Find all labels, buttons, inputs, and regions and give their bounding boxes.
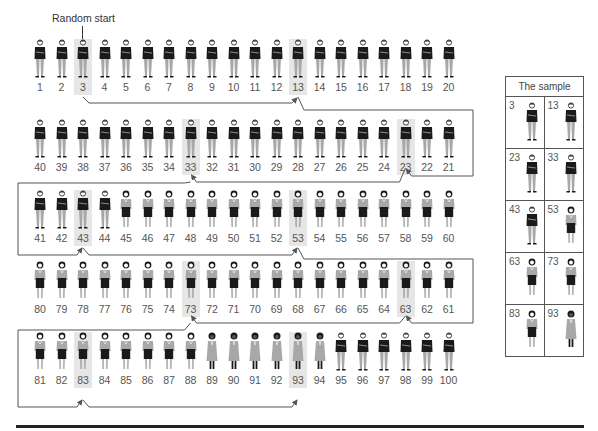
woman-skirt-figure-icon	[292, 190, 304, 230]
population-row: 8182838485868788899091929394959697989910…	[0, 332, 490, 390]
woman-skirt-figure-icon	[163, 261, 175, 301]
man-figure-icon	[120, 39, 132, 79]
woman-skirt-figure-icon	[56, 261, 68, 301]
man-figure-icon	[56, 190, 68, 230]
man-figure-icon	[421, 119, 433, 159]
woman-skirt-figure-icon	[185, 190, 197, 230]
random-start-label: Random start	[52, 12, 115, 24]
sample-number: 23	[509, 152, 520, 163]
man-figure-icon	[526, 102, 538, 142]
sample-cell: 3	[506, 97, 545, 149]
woman-skirt-figure-icon	[400, 190, 412, 230]
man-figure-icon	[443, 332, 455, 372]
woman-coat-figure-icon	[314, 332, 326, 372]
sample-box-title: The sample	[506, 77, 583, 97]
man-figure-icon	[292, 119, 304, 159]
woman-skirt-figure-icon	[249, 190, 261, 230]
sample-cell: 13	[545, 97, 584, 149]
man-figure-icon	[443, 119, 455, 159]
man-figure-icon	[357, 39, 369, 79]
woman-skirt-figure-icon	[163, 332, 175, 372]
woman-skirt-figure-icon	[56, 332, 68, 372]
woman-skirt-figure-icon	[228, 261, 240, 301]
man-figure-icon	[400, 332, 412, 372]
sample-number: 63	[509, 256, 520, 267]
sample-number: 13	[548, 100, 559, 111]
man-figure-icon	[77, 119, 89, 159]
woman-skirt-figure-icon	[142, 261, 154, 301]
woman-skirt-figure-icon	[142, 190, 154, 230]
man-figure-icon	[357, 332, 369, 372]
person: 21	[440, 119, 458, 175]
man-figure-icon	[335, 119, 347, 159]
woman-skirt-figure-icon	[185, 261, 197, 301]
woman-coat-figure-icon	[206, 332, 218, 372]
man-figure-icon	[249, 119, 261, 159]
woman-skirt-figure-icon	[526, 258, 538, 298]
man-figure-icon	[565, 102, 577, 142]
man-figure-icon	[34, 119, 46, 159]
woman-skirt-figure-icon	[120, 332, 132, 372]
woman-skirt-figure-icon	[314, 261, 326, 301]
man-figure-icon	[163, 39, 175, 79]
random-start-arrow-icon	[82, 26, 83, 40]
man-figure-icon	[34, 190, 46, 230]
woman-skirt-figure-icon	[120, 261, 132, 301]
man-figure-icon	[421, 332, 433, 372]
woman-coat-figure-icon	[249, 332, 261, 372]
woman-skirt-figure-icon	[335, 190, 347, 230]
population-row: 4039383736353433323130292827262524232221	[0, 119, 490, 177]
woman-skirt-figure-icon	[378, 261, 390, 301]
woman-skirt-figure-icon	[565, 258, 577, 298]
man-figure-icon	[56, 119, 68, 159]
man-figure-icon	[163, 119, 175, 159]
population-row: 8079787776757473727170696867666564636261	[0, 261, 490, 319]
woman-skirt-figure-icon	[206, 261, 218, 301]
woman-skirt-figure-icon	[565, 206, 577, 246]
person: 60	[440, 190, 458, 246]
man-figure-icon	[271, 39, 283, 79]
man-figure-icon	[99, 119, 111, 159]
sample-number: 93	[548, 308, 559, 319]
woman-skirt-figure-icon	[77, 261, 89, 301]
man-figure-icon	[400, 39, 412, 79]
woman-skirt-figure-icon	[378, 190, 390, 230]
sample-number: 3	[509, 100, 515, 111]
man-figure-icon	[99, 39, 111, 79]
man-figure-icon	[357, 119, 369, 159]
woman-skirt-figure-icon	[421, 261, 433, 301]
man-figure-icon	[142, 39, 154, 79]
sample-number: 43	[509, 204, 520, 215]
man-figure-icon	[335, 39, 347, 79]
woman-skirt-figure-icon	[34, 261, 46, 301]
sample-cell: 93	[545, 305, 584, 356]
woman-coat-figure-icon	[292, 332, 304, 372]
man-figure-icon	[185, 119, 197, 159]
man-figure-icon	[335, 332, 347, 372]
man-figure-icon	[77, 39, 89, 79]
sample-cell: 73	[545, 253, 584, 305]
man-figure-icon	[206, 119, 218, 159]
man-figure-icon	[314, 39, 326, 79]
systematic-sampling-diagram: Random start 123456789101112131415161718…	[0, 0, 598, 431]
woman-skirt-figure-icon	[443, 190, 455, 230]
man-figure-icon	[142, 119, 154, 159]
man-figure-icon	[228, 39, 240, 79]
sample-number: 53	[548, 204, 559, 215]
person-number: 21	[434, 161, 464, 173]
person: 100	[440, 332, 458, 388]
person-number: 61	[434, 303, 464, 315]
man-figure-icon	[271, 119, 283, 159]
woman-skirt-figure-icon	[120, 190, 132, 230]
sample-cell: 63	[506, 253, 545, 305]
woman-skirt-figure-icon	[335, 261, 347, 301]
woman-coat-figure-icon	[565, 310, 577, 350]
woman-skirt-figure-icon	[163, 190, 175, 230]
man-figure-icon	[120, 119, 132, 159]
man-figure-icon	[249, 39, 261, 79]
sample-cell: 23	[506, 149, 545, 201]
woman-skirt-figure-icon	[99, 332, 111, 372]
woman-skirt-figure-icon	[77, 332, 89, 372]
woman-skirt-figure-icon	[526, 310, 538, 350]
woman-skirt-figure-icon	[292, 261, 304, 301]
